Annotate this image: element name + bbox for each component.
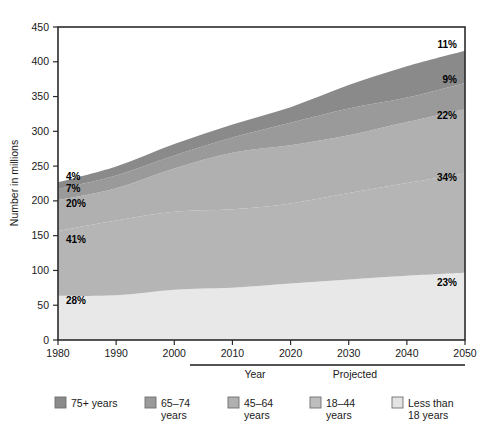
pct-label-right-2: 22% [437, 110, 457, 121]
pct-label-left-0: 4% [66, 171, 81, 182]
legend-label-line2: years [326, 409, 352, 421]
x-tick-label: 2040 [395, 347, 419, 359]
legend-label-line1: Less than [408, 397, 454, 409]
y-tick-label: 400 [31, 55, 49, 67]
stacked-area-chart: 450400350300250200150100500 198019902000… [0, 0, 487, 445]
pct-label-right-1: 9% [443, 74, 458, 85]
y-tick-label: 300 [31, 125, 49, 137]
pct-label-left-1: 7% [66, 183, 81, 194]
chart-canvas: 450400350300250200150100500 198019902000… [0, 0, 487, 445]
legend-label-line1: 18–44 [326, 397, 355, 409]
legend-swatch [392, 397, 403, 408]
legend-label-line2: years [244, 409, 270, 421]
x-axis-title: Year [244, 368, 266, 380]
y-tick-label: 250 [31, 160, 49, 172]
x-tick-label: 1980 [46, 347, 70, 359]
legend-label-line1: 75+ years [71, 397, 117, 409]
legend-swatch [228, 397, 239, 408]
legend-swatch [310, 397, 321, 408]
x-tick-label: 2030 [337, 347, 361, 359]
legend-swatch [145, 397, 156, 408]
legend-swatch [55, 397, 66, 408]
y-tick-label: 50 [37, 299, 49, 311]
legend-label-line1: 65–74 [161, 397, 190, 409]
y-tick-label: 0 [43, 334, 49, 346]
y-axis-title: Number in millions [8, 140, 20, 226]
pct-label-right-4: 23% [437, 277, 457, 288]
pct-label-left-2: 20% [66, 198, 86, 209]
x-tick-label: 2010 [221, 347, 245, 359]
y-tick-label: 450 [31, 21, 49, 33]
pct-label-right-0: 11% [438, 39, 458, 50]
legend-label-line1: 45–64 [244, 397, 273, 409]
y-tick-label: 200 [31, 194, 49, 206]
x-tick-label: 1990 [104, 347, 128, 359]
x-tick-label: 2020 [279, 347, 303, 359]
y-tick-label: 150 [31, 229, 49, 241]
pct-label-left-4: 28% [66, 295, 86, 306]
projected-label: Projected [333, 368, 378, 380]
legend-item-0: 75+ years [55, 397, 117, 409]
y-tick-label: 350 [31, 90, 49, 102]
x-tick-label: 2050 [453, 347, 477, 359]
legend-label-line2: years [161, 409, 187, 421]
y-tick-label: 100 [31, 264, 49, 276]
x-tick-label: 2000 [163, 347, 187, 359]
pct-label-right-3: 34% [437, 172, 457, 183]
legend-label-line2: 18 years [408, 409, 448, 421]
pct-label-left-3: 41% [66, 234, 86, 245]
